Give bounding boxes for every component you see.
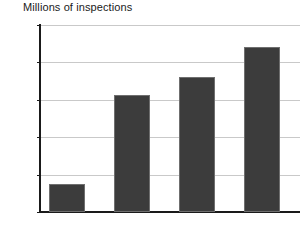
y-tick-mark (37, 137, 41, 138)
bar-chart-figure: Millions of inspections 0.00.51.01.52.02… (0, 0, 304, 238)
chart-title: Millions of inspections (23, 1, 132, 13)
y-tick-mark (37, 100, 41, 101)
bar (114, 95, 150, 212)
y-tick-mark (37, 212, 41, 213)
bar (244, 47, 280, 212)
y-tick-mark (37, 175, 41, 176)
bar (179, 77, 215, 212)
plot-area: 0.00.51.01.52.02.51985199019951999 (41, 25, 300, 212)
bar (49, 184, 85, 212)
gridline (41, 25, 300, 26)
y-tick-mark (37, 25, 41, 26)
y-tick-mark (37, 62, 41, 63)
